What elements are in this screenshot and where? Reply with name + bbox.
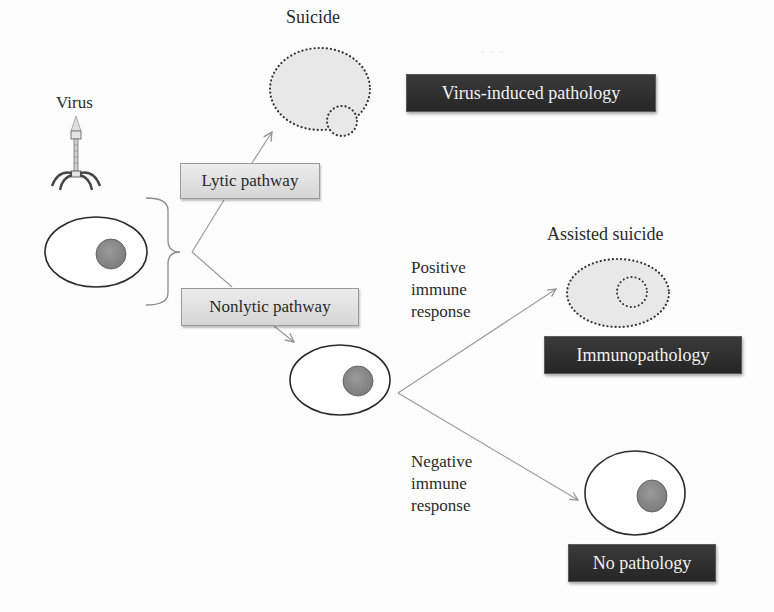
assisted-suicide-label: Assisted suicide <box>547 223 664 246</box>
positive-response-line-1: Positive <box>411 257 470 279</box>
infected-cell <box>45 217 147 287</box>
nonlytic-pathway-box: Nonlytic pathway <box>181 288 359 326</box>
arrow-lytic-to-suicide <box>252 132 272 163</box>
lytic-pathway-box: Lytic pathway <box>180 163 320 199</box>
persistently-infected-cell <box>290 345 390 415</box>
outcome-immunopathology: Immunopathology <box>544 336 742 374</box>
grouping-brace <box>146 198 180 305</box>
negative-response-line-3: response <box>411 495 472 517</box>
negative-immune-response-label: Negative immune response <box>411 451 472 516</box>
negative-response-line-1: Negative <box>411 451 472 473</box>
lysed-cell-assisted-suicide <box>567 259 669 327</box>
outcome-no-pathology: No pathology <box>568 544 716 582</box>
lysed-cell-suicide <box>270 48 370 136</box>
diagram-canvas: · · · <box>0 0 774 612</box>
positive-immune-response-label: Positive immune response <box>411 257 470 322</box>
positive-response-line-2: immune <box>411 279 470 301</box>
bacteriophage-icon <box>52 116 100 190</box>
fork-line-nonlytic <box>192 252 232 287</box>
healthy-cell <box>585 451 685 535</box>
fork-line-lytic <box>192 200 224 252</box>
virus-label: Virus <box>56 92 93 114</box>
negative-response-line-2: immune <box>411 473 472 495</box>
diagram-graphics <box>0 0 774 612</box>
outcome-virus-induced-pathology: Virus-induced pathology <box>406 74 656 112</box>
suicide-label: Suicide <box>286 6 340 29</box>
arrow-nonlytic-to-cell <box>274 326 294 342</box>
positive-response-line-3: response <box>411 301 470 323</box>
